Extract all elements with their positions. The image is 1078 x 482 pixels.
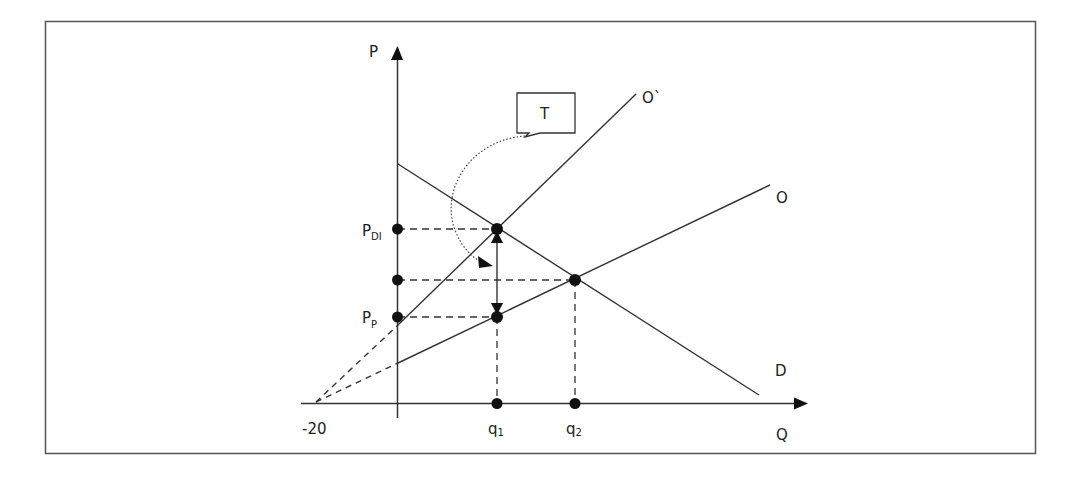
- quantity-guides: [497, 280, 575, 403]
- q1-label: q1: [488, 420, 504, 438]
- p-di-label: PDI: [362, 222, 382, 242]
- dot-equilibrium-point: [569, 274, 581, 286]
- tax-incidence-diagram: P Q -20 D O O` PDI PP: [0, 0, 1078, 482]
- tax-callout-label: T: [539, 105, 550, 123]
- shifted-supply-label: O`: [642, 89, 661, 107]
- p-axis-label: P: [369, 43, 378, 61]
- tax-curved-arrow: [451, 136, 525, 263]
- dot-consumer-price-point: [491, 223, 503, 235]
- dot-p-p: [392, 312, 403, 323]
- p-p-label: PP: [362, 309, 377, 330]
- dot-p-eq: [392, 275, 403, 286]
- diagram-frame: [46, 22, 1036, 454]
- q-axis-arrow-icon: [794, 398, 808, 410]
- x-min-label: -20: [302, 420, 327, 438]
- dot-producer-price-point: [491, 311, 503, 323]
- tax-wedge-arrow: [491, 231, 503, 315]
- dot-q1: [492, 398, 503, 409]
- supply-curve: [398, 185, 770, 363]
- supply-label: O: [776, 189, 788, 207]
- dot-p-di: [392, 224, 403, 235]
- tax-callout: T: [517, 93, 575, 137]
- q2-label: q2: [566, 420, 582, 438]
- q-axis-label: Q: [776, 426, 788, 444]
- tax-curved-arrow-head-icon: [478, 256, 493, 268]
- p-axis-arrow-icon: [391, 46, 403, 60]
- demand-label: D: [775, 362, 787, 380]
- dot-q2: [570, 398, 581, 409]
- supply-curve-extension: [316, 363, 398, 402]
- price-guides: [398, 229, 575, 317]
- shifted-supply-curve-extension: [316, 325, 398, 402]
